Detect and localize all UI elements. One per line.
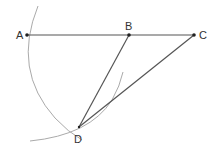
segment-cd xyxy=(79,35,194,127)
point-d xyxy=(78,126,80,128)
point-b xyxy=(127,33,131,37)
point-c xyxy=(192,33,196,37)
segment-bd xyxy=(79,35,129,127)
point-a xyxy=(25,33,29,37)
label-d: D xyxy=(74,133,82,145)
arc-through-d xyxy=(30,72,123,141)
diagram-canvas: A B C D xyxy=(0,0,220,149)
label-b: B xyxy=(125,20,132,32)
geometry-figure: A B C D xyxy=(0,0,220,149)
arc-centered-b xyxy=(28,6,82,140)
label-c: C xyxy=(199,29,207,41)
label-a: A xyxy=(16,29,24,41)
